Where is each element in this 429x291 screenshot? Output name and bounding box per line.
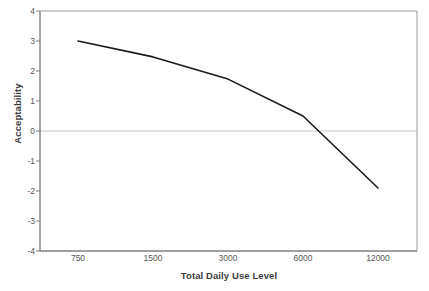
x-axis-tick-labels: 750 1500 3000 6000 12000 (0, 0, 429, 291)
chart-container: 4 3 2 1 0 -1 -2 -3 -4 750 1500 3000 6000… (0, 0, 429, 291)
x-tick-label: 3000 (198, 254, 258, 263)
x-tick-label: 12000 (348, 254, 408, 263)
x-tick-label: 750 (48, 254, 108, 263)
x-axis-title: Total Daily Use Level (40, 270, 418, 281)
x-tick-label: 6000 (273, 254, 333, 263)
y-axis-title: Acceptability (12, 54, 23, 174)
x-tick-label: 1500 (123, 254, 183, 263)
